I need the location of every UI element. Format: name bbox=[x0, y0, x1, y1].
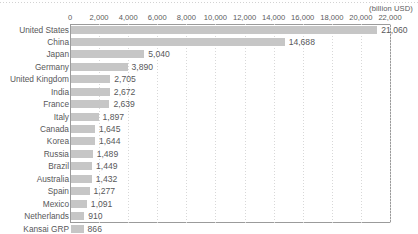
x-tick-label: 18,000 bbox=[320, 13, 343, 22]
x-axis-tick-labels: 02,0004,0006,0008,00010,00012,00014,0001… bbox=[0, 13, 418, 23]
bar-value-label: 1,645 bbox=[99, 124, 121, 134]
bar bbox=[71, 38, 285, 46]
x-tick-label: 0 bbox=[68, 13, 72, 22]
bar bbox=[71, 137, 95, 145]
bar-value-label: 910 bbox=[88, 211, 102, 221]
category-label: Netherlands bbox=[0, 211, 69, 221]
x-tick-label: 2,000 bbox=[90, 13, 109, 22]
bar-value-label: 2,672 bbox=[114, 87, 136, 97]
category-label: Spain bbox=[0, 186, 69, 196]
category-label: Canada bbox=[0, 124, 69, 134]
bar-row: United Kingdom2,705 bbox=[0, 73, 418, 85]
bar-row: United States21,060 bbox=[0, 24, 418, 36]
bar bbox=[71, 225, 84, 233]
x-tick-label: 14,000 bbox=[262, 13, 285, 22]
bar-value-label: 2,639 bbox=[113, 99, 135, 109]
bar bbox=[71, 113, 99, 121]
category-label: Kansai GRP bbox=[0, 224, 69, 234]
bar bbox=[71, 150, 93, 158]
category-label: Russia bbox=[0, 149, 69, 159]
category-label: United States bbox=[0, 25, 69, 35]
bar-row: Korea1,644 bbox=[0, 135, 418, 147]
bar-value-label: 21,060 bbox=[381, 25, 407, 35]
bar bbox=[71, 212, 84, 220]
bar-row: Germany3,890 bbox=[0, 61, 418, 73]
bar-row: Russia1,489 bbox=[0, 148, 418, 160]
bar-row: Kansai GRP866 bbox=[0, 223, 418, 234]
bar bbox=[71, 125, 95, 133]
bar-value-label: 1,644 bbox=[99, 136, 121, 146]
bar bbox=[71, 88, 110, 96]
bar-value-label: 5,040 bbox=[148, 49, 170, 59]
bar bbox=[71, 175, 92, 183]
category-label: Japan bbox=[0, 49, 69, 59]
bar-value-label: 866 bbox=[88, 224, 102, 234]
x-tick-label: 10,000 bbox=[204, 13, 227, 22]
unit-label: (billion USD) bbox=[369, 4, 413, 13]
top-divider bbox=[0, 2, 418, 3]
category-label: Australia bbox=[0, 174, 69, 184]
bar-row: Canada1,645 bbox=[0, 123, 418, 135]
bar-row: Mexico1,091 bbox=[0, 198, 418, 210]
category-label: Mexico bbox=[0, 199, 69, 209]
bar bbox=[71, 63, 128, 71]
x-tick-label: 12,000 bbox=[233, 13, 256, 22]
category-label: Italy bbox=[0, 112, 69, 122]
bar bbox=[71, 50, 144, 58]
category-label: China bbox=[0, 37, 69, 47]
bar-value-label: 1,489 bbox=[97, 149, 119, 159]
bar-value-label: 1,277 bbox=[94, 186, 116, 196]
bar-value-label: 3,890 bbox=[132, 62, 154, 72]
bar-row: Australia1,432 bbox=[0, 173, 418, 185]
bar-row: Italy1,897 bbox=[0, 111, 418, 123]
category-label: Germany bbox=[0, 62, 69, 72]
category-label: France bbox=[0, 99, 69, 109]
x-tick-label: 6,000 bbox=[148, 13, 167, 22]
x-tick-label: 22,000 bbox=[378, 13, 401, 22]
bar bbox=[71, 200, 87, 208]
bar-value-label: 1,432 bbox=[96, 174, 118, 184]
bar-rows: United States21,060China14,688Japan5,040… bbox=[0, 24, 418, 234]
bar-row: India2,672 bbox=[0, 86, 418, 98]
bar bbox=[71, 26, 377, 34]
bar bbox=[71, 162, 92, 170]
bar-row: France2,639 bbox=[0, 98, 418, 110]
category-label: Korea bbox=[0, 136, 69, 146]
bar-row: Japan5,040 bbox=[0, 48, 418, 60]
bar bbox=[71, 100, 109, 108]
bar-value-label: 14,688 bbox=[289, 37, 315, 47]
x-tick-label: 8,000 bbox=[177, 13, 196, 22]
x-tick-label: 4,000 bbox=[119, 13, 138, 22]
bar-value-label: 1,091 bbox=[91, 199, 113, 209]
bar-value-label: 2,705 bbox=[114, 74, 136, 84]
bar bbox=[71, 187, 90, 195]
bar-row: Spain1,277 bbox=[0, 185, 418, 197]
bar-value-label: 1,897 bbox=[103, 112, 125, 122]
bar-row: Netherlands910 bbox=[0, 210, 418, 222]
bar-row: Brazil1,449 bbox=[0, 160, 418, 172]
category-label: Brazil bbox=[0, 161, 69, 171]
bar bbox=[71, 75, 110, 83]
category-label: United Kingdom bbox=[0, 74, 69, 84]
x-tick-label: 16,000 bbox=[291, 13, 314, 22]
category-label: India bbox=[0, 87, 69, 97]
bar-value-label: 1,449 bbox=[96, 161, 118, 171]
chart-root: (billion USD) 02,0004,0006,0008,00010,00… bbox=[0, 0, 418, 233]
bar-row: China14,688 bbox=[0, 36, 418, 48]
x-tick-label: 20,000 bbox=[349, 13, 372, 22]
